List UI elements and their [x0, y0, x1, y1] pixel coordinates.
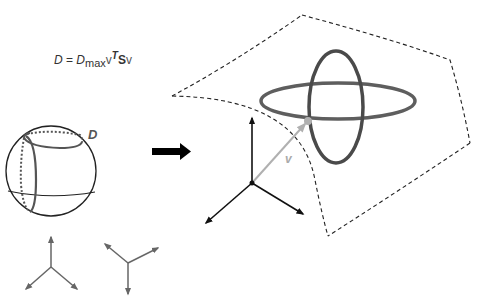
- transform-arrow-icon: [152, 143, 191, 160]
- sphere: [6, 126, 96, 216]
- eq-equals: =: [63, 53, 77, 67]
- sphere-label-d: D: [88, 127, 97, 142]
- point-marker: [304, 117, 312, 125]
- tangent-surface: [172, 15, 470, 236]
- eq-lhs: D: [54, 53, 63, 67]
- eq-dmax: D: [76, 53, 85, 67]
- vector-label-v: v: [285, 152, 292, 166]
- eq-matrix: S: [118, 53, 126, 67]
- diffusion-equation: D = DmaxvTSv: [54, 50, 132, 69]
- main-axes: [206, 118, 303, 223]
- small-axes-1: [26, 237, 77, 289]
- vector-v: [252, 117, 312, 183]
- small-axes-2: [105, 244, 158, 294]
- diffusion-diagram: [0, 0, 480, 306]
- eq-dmax-sub: max: [85, 57, 106, 69]
- eq-v2: v: [126, 53, 132, 67]
